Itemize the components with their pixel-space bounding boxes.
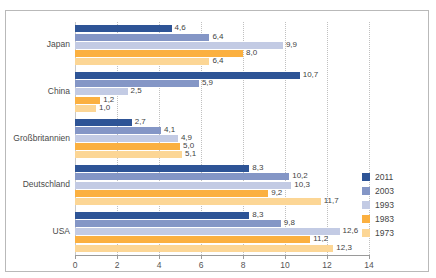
legend-label: 2011 — [375, 172, 393, 182]
category-label: China — [2, 86, 70, 96]
legend-item[interactable]: 1973 — [362, 226, 394, 240]
legend-label: 1973 — [375, 228, 394, 238]
legend: 20112003199319831973 — [362, 170, 394, 240]
bar-value-label: 4,1 — [164, 125, 175, 134]
bar-value-label: 11,2 — [313, 234, 328, 243]
bar[interactable] — [75, 173, 289, 180]
bar-value-label: 12,6 — [343, 226, 359, 235]
bar[interactable] — [75, 182, 291, 189]
bar[interactable] — [75, 212, 249, 219]
bar[interactable] — [75, 88, 128, 95]
bar[interactable] — [75, 143, 180, 150]
bar[interactable] — [75, 72, 300, 79]
bar[interactable] — [75, 198, 321, 205]
bar[interactable] — [75, 220, 281, 227]
bar-value-label: 9,2 — [271, 188, 282, 197]
x-tick — [201, 255, 202, 259]
bar-value-label: 12,3 — [336, 243, 352, 252]
x-tick-label: 2 — [115, 260, 120, 270]
bar[interactable] — [75, 58, 209, 65]
category-label: Japan — [2, 39, 70, 49]
legend-swatch-icon — [362, 201, 370, 209]
bar-value-label: 4,6 — [175, 23, 186, 32]
bar-value-label: 8,3 — [252, 163, 263, 172]
bar-value-label: 8,0 — [246, 48, 257, 57]
legend-item[interactable]: 1983 — [362, 212, 394, 226]
bar[interactable] — [75, 228, 340, 235]
x-tick — [369, 255, 370, 259]
legend-item[interactable]: 2003 — [362, 184, 394, 198]
legend-label: 1983 — [375, 214, 394, 224]
x-tick — [159, 255, 160, 259]
bar[interactable] — [75, 245, 333, 252]
chart-root: 02468101214 Japan4,66,49,98,06,4China10,… — [0, 0, 436, 278]
x-tick-label: 12 — [322, 260, 331, 270]
bar[interactable] — [75, 119, 132, 126]
x-tick-label: 6 — [199, 260, 204, 270]
bar-value-label: 8,3 — [252, 210, 263, 219]
legend-swatch-icon — [362, 215, 370, 223]
bar[interactable] — [75, 127, 161, 134]
x-tick-label: 4 — [157, 260, 162, 270]
bar[interactable] — [75, 165, 249, 172]
legend-swatch-icon — [362, 229, 370, 237]
legend-swatch-icon — [362, 173, 370, 181]
category-label: Großbritannien — [2, 133, 70, 143]
bar-value-label: 2,7 — [135, 117, 146, 126]
legend-item[interactable]: 2011 — [362, 170, 394, 184]
legend-label: 1993 — [375, 200, 394, 210]
bar-value-label: 10,3 — [294, 180, 310, 189]
bar[interactable] — [75, 190, 268, 197]
x-tick — [243, 255, 244, 259]
x-tick — [75, 255, 76, 259]
bar-value-label: 5,9 — [202, 78, 213, 87]
bar-value-label: 11,7 — [324, 196, 339, 205]
bar-value-label: 5,1 — [185, 149, 196, 158]
gridline — [327, 22, 329, 255]
bar-value-label: 6,4 — [212, 56, 223, 65]
x-axis-line — [75, 255, 369, 256]
legend-swatch-icon — [362, 187, 370, 195]
bar-value-label: 2,5 — [131, 86, 142, 95]
x-tick — [117, 255, 118, 259]
x-tick — [327, 255, 328, 259]
x-tick — [285, 255, 286, 259]
bar[interactable] — [75, 97, 100, 104]
x-tick-label: 10 — [280, 260, 289, 270]
bar[interactable] — [75, 34, 209, 41]
bar[interactable] — [75, 105, 96, 112]
legend-label: 2003 — [375, 186, 394, 196]
bar-value-label: 6,4 — [212, 32, 223, 41]
legend-item[interactable]: 1993 — [362, 198, 394, 212]
bar[interactable] — [75, 135, 178, 142]
bar[interactable] — [75, 151, 182, 158]
x-tick-label: 8 — [241, 260, 246, 270]
bar[interactable] — [75, 236, 310, 243]
category-label: USA — [2, 226, 70, 236]
bar-value-label: 1,0 — [99, 103, 110, 112]
x-tick-label: 0 — [73, 260, 78, 270]
bar-value-label: 9,8 — [284, 218, 295, 227]
category-label: Deutschland — [2, 179, 70, 189]
bar-value-label: 10,7 — [303, 70, 319, 79]
bar[interactable] — [75, 25, 172, 32]
bar-value-label: 9,9 — [286, 40, 297, 49]
chart-title — [0, 0, 436, 3]
x-tick-label: 14 — [364, 260, 373, 270]
